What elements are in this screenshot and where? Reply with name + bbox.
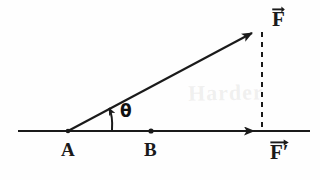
point-b-marker	[148, 128, 153, 133]
angle-arc	[109, 108, 112, 130]
point-a-marker	[66, 129, 71, 134]
force-component-label-wrap: F′	[270, 139, 289, 163]
force-diagram-figure: Harder θ A B	[0, 0, 320, 180]
point-a-label: A	[61, 140, 75, 159]
point-b-label: B	[144, 140, 157, 159]
vector-overbar-arrow-icon	[272, 6, 285, 13]
force-vector-arrow	[68, 33, 252, 131]
angle-theta-label: θ	[120, 101, 132, 121]
component-overbar-arrow-icon	[270, 139, 289, 146]
force-vector-label: F	[272, 6, 285, 30]
force-component-label: F′	[270, 139, 289, 163]
force-vector-label-wrap: F	[272, 6, 285, 30]
